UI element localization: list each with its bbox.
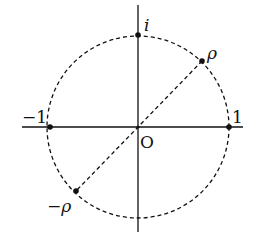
point-i — [135, 32, 141, 38]
label-i: i — [144, 15, 149, 35]
label-origin: O — [140, 132, 154, 152]
point-minus-one — [47, 124, 53, 130]
label-one: 1 — [232, 107, 243, 127]
point-one — [226, 124, 232, 130]
label-neg-rho: −ρ — [47, 196, 71, 216]
unit-circle-diagram: i ρ −1 1 O −ρ — [0, 0, 255, 245]
label-rho: ρ — [206, 43, 217, 63]
point-neg-rho — [73, 188, 79, 194]
point-rho — [199, 58, 205, 64]
point-origin — [136, 125, 139, 128]
label-minus-one: −1 — [22, 107, 47, 127]
